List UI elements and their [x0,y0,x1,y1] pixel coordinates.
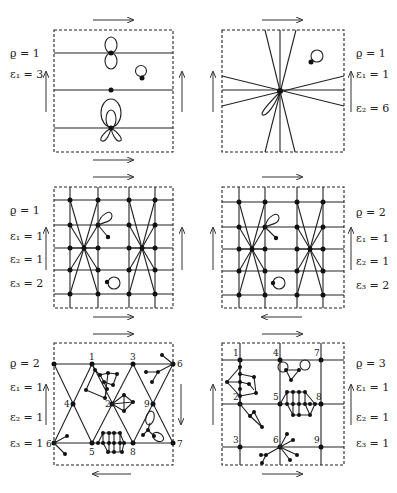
label: ε₁ = 1 [356,232,389,245]
vertex [263,200,268,205]
vertex [96,268,101,273]
vertex [263,293,268,298]
label: ε₂ = 1 [356,255,389,268]
grid-graph [54,187,173,308]
vertex-number: 4 [273,348,279,358]
vertex [105,280,109,284]
torus-boundary-box [54,30,173,152]
vertex [109,126,114,131]
label: ε₁ = 1 [10,230,43,243]
label: ε₃ = 2 [356,279,389,292]
label: ε₃ = 1 [356,437,389,450]
vertex [68,223,73,228]
vertex-number: 5 [273,392,279,402]
label: ϱ = 1 [10,204,40,217]
vertex [237,269,242,274]
label: ϱ = 2 [10,357,40,370]
vertex [274,236,278,240]
panel-middle-right: ϱ = 2 ε₁ = 1 ε₂ = 1 ε₃ = 2 [213,177,389,317]
loop [108,277,120,289]
vertex [127,292,132,297]
label: ϱ = 1 [356,47,386,60]
vertex [153,223,158,228]
label: ε₁ = 1 [10,381,43,394]
panel-middle-left: ϱ = 1 ε₁ = 1 ε₂ = 1 ε₃ = 2 [10,177,182,317]
edge [239,249,252,271]
edge [129,225,142,248]
vertex [127,268,132,273]
vertex [153,268,158,273]
loop [98,212,112,225]
subgraph [144,353,173,384]
vertex [140,246,145,251]
label: ϱ = 1 [10,47,40,60]
vertex [250,247,255,252]
edge [239,227,252,249]
grid-graph [222,187,344,308]
vertex [321,200,326,205]
vertex-number: 6 [177,359,183,369]
vertex [321,225,326,230]
edge [310,249,323,271]
vertex [153,292,158,297]
subgraph [240,404,264,429]
label: ε₂ = 1 [10,411,43,424]
vertex-number: 5 [89,447,95,457]
loop [265,214,279,227]
loop [101,99,121,127]
vertex [96,292,101,297]
label: ε₃ = 1 [10,437,43,450]
vertex-number: 7 [314,348,320,358]
edge [129,248,142,270]
label: ε₂ = 1 [356,411,389,424]
vertex [295,200,300,205]
vertex [321,269,326,274]
edge [84,248,98,270]
edge [265,227,276,238]
edge [70,248,84,270]
vertex-number: 1 [233,348,239,358]
label: ϱ = 3 [356,357,386,370]
vertex [153,198,158,203]
panel-bottom-right: 1 2 3 4 5 6 7 8 9 ϱ = 3 ε₁ = 1 ε₂ = 1 ε₃… [213,334,389,474]
panel-top-right: ϱ = 1 ε₁ = 1 ε₂ = 6 [213,20,389,152]
vertex [295,293,300,298]
vertex [277,88,283,94]
vertex-number: 3 [233,435,239,445]
vertex [321,293,326,298]
vertex-number: 2 [105,399,111,409]
vertex-number: 3 [130,352,136,362]
vertex [82,246,87,251]
edge [297,249,310,271]
vertex [127,246,132,251]
label: ε₂ = 1 [10,253,43,266]
subgraph [225,360,258,404]
edge [310,227,323,249]
vertex [295,247,300,252]
vertex [237,200,242,205]
subgraph [141,410,165,443]
vertex [309,60,314,65]
edge [98,225,108,237]
vertex-number: 6 [273,435,279,445]
label: ε₁ = 1 [356,68,389,81]
vertex [237,293,242,298]
vertex [106,235,110,239]
loop [106,110,116,128]
edge [142,248,155,270]
label: ε₁ = 3 [10,68,43,81]
vertex [295,269,300,274]
subgraph [280,390,317,417]
loop [136,66,147,77]
vertex-number: 9 [144,399,150,409]
vertex [127,198,132,203]
label: ε₃ = 2 [10,277,43,290]
label: ε₂ = 6 [356,102,389,115]
vertex-number: 8 [130,447,136,457]
subgraph [278,360,310,382]
vertex [127,223,132,228]
vertex [96,198,101,203]
edge [70,225,84,248]
vertex [153,246,158,251]
vertex [263,269,268,274]
